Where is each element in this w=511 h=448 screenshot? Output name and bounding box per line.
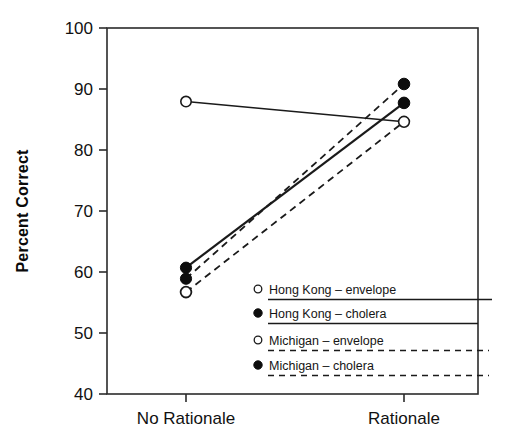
y-axis-title: Percent Correct <box>14 149 31 273</box>
x-tick-label-no-rationale: No Rationale <box>137 409 235 428</box>
series-line-michigan-cholera <box>186 84 404 279</box>
y-tick-label-90: 90 <box>74 80 93 99</box>
y-tick-label-70: 70 <box>74 202 93 221</box>
legend-marker-open-circle-hong-kong-envelope <box>254 285 262 293</box>
datapoint-hong-kong-cholera-rationale <box>398 97 410 109</box>
legend-label-michigan-cholera: Michigan – cholera <box>269 359 374 373</box>
chart-figure: 100 90 80 70 60 50 40 No Rationale Ratio… <box>0 0 511 448</box>
y-axis-ticks <box>99 28 107 394</box>
legend-label-michigan-envelope: Michigan – envelope <box>269 334 384 348</box>
legend-label-hong-kong-cholera: Hong Kong – cholera <box>269 307 386 321</box>
datapoint-hong-kong-envelope-rationale <box>399 116 410 127</box>
line-chart: 100 90 80 70 60 50 40 No Rationale Ratio… <box>0 0 511 448</box>
datapoint-hong-kong-cholera-no-rationale <box>180 262 191 273</box>
legend-marker-filled-circle-michigan-cholera <box>254 361 262 369</box>
legend-marker-open-circle-michigan-envelope <box>254 336 262 344</box>
datapoint-hong-kong-envelope-no-rationale <box>181 96 191 106</box>
x-axis-ticks <box>186 394 404 402</box>
legend-label-hong-kong-envelope: Hong Kong – envelope <box>269 283 396 297</box>
chart-legend: Hong Kong – envelope Hong Kong – cholera… <box>254 283 492 376</box>
y-tick-label-60: 60 <box>74 263 93 282</box>
y-tick-label-50: 50 <box>74 324 93 343</box>
series-line-hong-kong-envelope <box>186 102 404 122</box>
datapoint-michigan-cholera-rationale <box>398 78 410 90</box>
y-tick-label-40: 40 <box>74 385 93 404</box>
legend-marker-filled-circle-hong-kong-cholera <box>254 309 262 317</box>
datapoint-michigan-cholera-no-rationale <box>180 273 191 284</box>
y-tick-label-80: 80 <box>74 141 93 160</box>
series-line-hong-kong-cholera <box>186 103 404 268</box>
series-line-michigan-envelope <box>186 122 404 292</box>
y-tick-label-100: 100 <box>65 19 93 38</box>
x-tick-label-rationale: Rationale <box>368 409 440 428</box>
datapoint-michigan-envelope-no-rationale <box>181 287 192 298</box>
